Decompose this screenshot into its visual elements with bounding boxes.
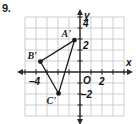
vertex-dot-b-prime xyxy=(38,59,43,64)
coordinate-plane-figure: 9. A'B'C'–4242–2Oxy xyxy=(0,0,136,124)
y-tick-label-neg2: –2 xyxy=(81,90,92,100)
graph-canvas xyxy=(0,0,136,124)
vertex-label-a-prime: A' xyxy=(62,29,71,39)
vertex-dot-a-prime xyxy=(72,38,77,43)
origin-label: O xyxy=(83,76,91,86)
y-tick-label-2: 2 xyxy=(83,41,89,51)
vertex-label-b-prime: B' xyxy=(27,51,36,61)
triangle-shape xyxy=(40,40,74,93)
axis-tick-marks xyxy=(25,17,124,116)
x-tick-label-neg4: –4 xyxy=(29,77,40,87)
vertex-label-c-prime: C' xyxy=(47,96,56,106)
gridlines xyxy=(25,17,124,116)
vertex-dot-c-prime xyxy=(56,91,61,96)
y-axis-label: y xyxy=(84,11,90,21)
x-axis-label: x xyxy=(126,58,132,68)
axes xyxy=(17,9,133,124)
x-tick-label-2: 2 xyxy=(99,77,105,87)
